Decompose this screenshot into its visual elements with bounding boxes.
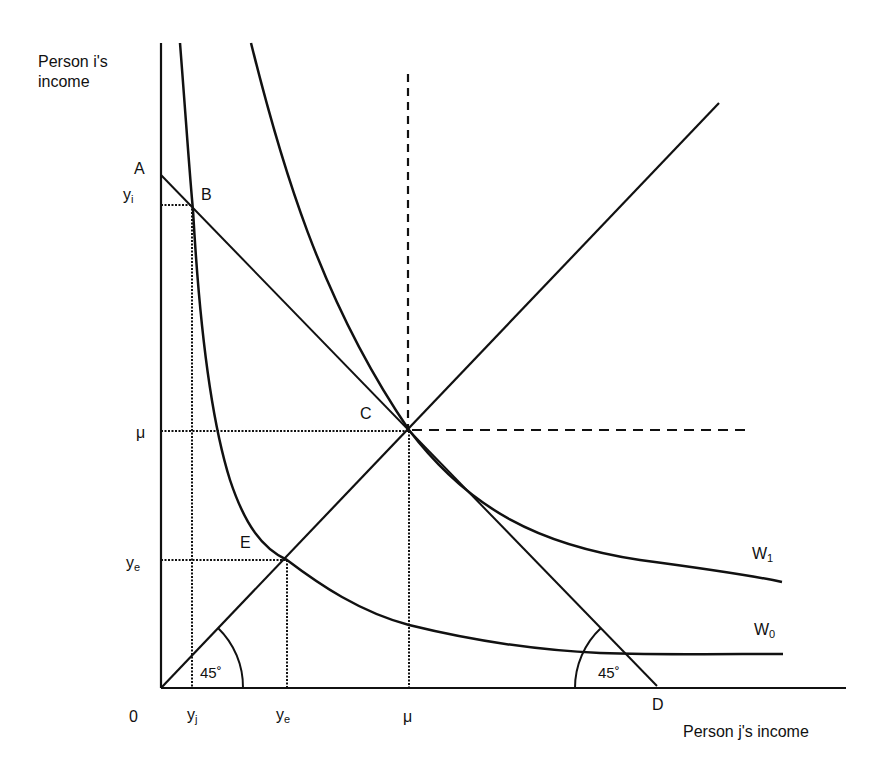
- angle-arc-origin: [218, 628, 243, 688]
- W0-curve: [180, 43, 783, 654]
- y-axis-title-line1: Person i's: [38, 52, 108, 72]
- y-tick-mu: μ: [136, 424, 145, 442]
- y-axis-title: Person i's income: [38, 52, 108, 92]
- y-tick-yi: yi: [123, 186, 133, 208]
- equality-line: [161, 103, 719, 688]
- y-axis-title-line2: income: [38, 72, 108, 92]
- y-tick-ye: ye: [126, 554, 140, 576]
- angle-label-origin: 45˚: [200, 664, 222, 682]
- W1-label: W1: [752, 545, 773, 567]
- W0-label: W0: [754, 621, 775, 643]
- x-tick-yj: yj: [187, 706, 197, 728]
- point-E-label: E: [240, 534, 251, 552]
- angle-label-D: 45˚: [598, 664, 620, 682]
- point-A-label: A: [134, 160, 145, 178]
- x-tick-mu: μ: [403, 708, 412, 726]
- W1-curve: [251, 43, 782, 582]
- point-C-label: C: [360, 405, 372, 423]
- x-tick-ye: ye: [276, 706, 290, 728]
- point-B-label: B: [201, 186, 212, 204]
- x-axis-title: Person j's income: [683, 722, 809, 742]
- welfare-diagram: [0, 0, 886, 776]
- origin-label: 0: [129, 708, 138, 726]
- point-D-label: D: [652, 696, 664, 714]
